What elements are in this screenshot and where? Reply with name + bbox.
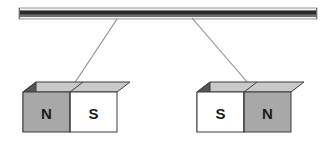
magnet-suspension-diagram: N S S N <box>0 0 324 148</box>
right-suspension-string <box>192 18 254 90</box>
support-rod-core <box>19 10 317 14</box>
right-magnet-north-label: N <box>262 105 273 122</box>
left-suspension-string <box>70 19 117 90</box>
left-magnet-north-label: N <box>41 105 52 122</box>
diagram-canvas: N S S N <box>0 0 324 148</box>
right-magnet-south-label: S <box>215 105 225 122</box>
left-magnet: N S <box>23 82 130 132</box>
support-rod-lower-shade <box>19 15 317 17</box>
right-magnet: S N <box>197 82 304 132</box>
left-magnet-south-label: S <box>88 105 98 122</box>
suspension-strings <box>70 18 254 90</box>
support-rod <box>19 8 317 19</box>
